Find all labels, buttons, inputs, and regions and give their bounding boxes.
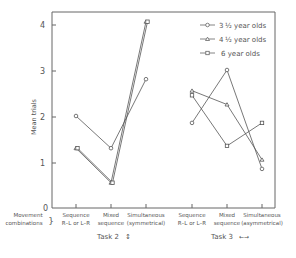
series-2-marker-icon [76, 147, 79, 150]
series-0-marker-icon [190, 121, 194, 125]
y-axis [52, 25, 56, 163]
x-label-task3-seq-2: R–L or L–R [178, 220, 207, 226]
series-line-task2-0 [76, 79, 146, 148]
brace: } [48, 216, 54, 226]
series-line-task2-2 [78, 22, 148, 183]
series-1-marker-icon [260, 158, 264, 161]
x-label-task3-mixed-2: sequence [214, 220, 241, 227]
x-label-task2-sim-1: Simultaneous [127, 212, 165, 218]
x-label-task3-sim-1: Simultaneous [243, 212, 281, 218]
series-0-marker-icon [225, 68, 229, 72]
series-0-marker-icon [144, 77, 148, 81]
x-label-task2-seq-2: R–L or L–R [62, 220, 91, 226]
legend-label-4half: ½ year olds [225, 36, 267, 44]
x-label-task2-mixed-1: Mixed [103, 212, 119, 218]
series-line-task3-1 [192, 91, 262, 160]
x-row-label-2: combinations [5, 220, 42, 226]
x-row-label-1: Movement [13, 212, 43, 218]
legend-label-3half-num: 3 [219, 22, 223, 30]
legend [200, 23, 215, 55]
series-line-task2-1 [76, 22, 146, 183]
legend-label-4half-num: 4 [219, 36, 224, 44]
task2-label: Task 2 [96, 233, 119, 241]
x-axis [76, 204, 262, 208]
y-tick-3: 3 [40, 67, 45, 76]
series-2-marker-icon [146, 20, 149, 23]
y-tick-0: 0 [43, 204, 48, 213]
series-1-marker-icon [225, 103, 229, 106]
series-2-marker-icon [111, 181, 114, 184]
series-2-marker-icon [190, 94, 193, 97]
x-label-task2-sim-2: (symmetrical) [127, 220, 165, 227]
x-label-task3-seq-1: Sequence [178, 212, 206, 219]
chart: 4 3 2 1 0 Mean trials Movement combinati… [0, 0, 296, 258]
series-1-marker-icon [190, 89, 194, 92]
series-0-marker-icon [260, 167, 264, 171]
task3-symbol: ←→ [239, 233, 249, 240]
series-0-marker-icon [109, 146, 113, 150]
series-0-marker-icon [74, 114, 78, 118]
series-2-marker-icon [260, 121, 263, 124]
series-line-task3-0 [192, 70, 262, 169]
x-label-task2-seq-1: Sequence [62, 212, 90, 219]
legend-label-6: 6 year olds [221, 50, 260, 58]
task2-symbol: ↕ [125, 233, 131, 241]
task3-label: Task 3 [210, 233, 233, 241]
series-layer [74, 20, 264, 185]
legend-label-3half: ½ year olds [225, 22, 267, 30]
y-tick-4: 4 [40, 21, 45, 30]
x-label-task2-mixed-2: sequence [98, 220, 125, 227]
y-tick-1: 1 [40, 159, 45, 168]
x-label-task3-sim-2: (asymmetrical) [241, 220, 283, 227]
y-tick-2: 2 [40, 113, 45, 122]
series-2-marker-icon [225, 144, 228, 147]
y-axis-label: Mean trials [30, 98, 38, 135]
x-label-task3-mixed-1: Mixed [219, 212, 235, 218]
